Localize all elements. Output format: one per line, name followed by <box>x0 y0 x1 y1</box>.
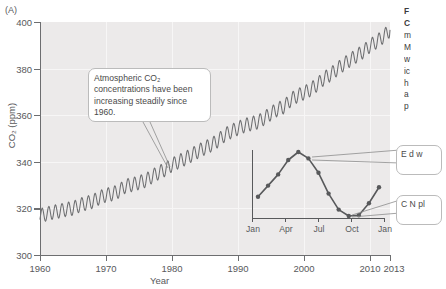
y-tick <box>34 69 40 70</box>
y-axis-line <box>40 22 41 256</box>
y-tick <box>34 115 40 116</box>
x-tick <box>40 255 41 261</box>
inset-tick-label: Jan <box>241 224 265 234</box>
y-tick <box>34 208 40 209</box>
caption-line: w <box>404 54 410 64</box>
inset-tick <box>285 218 286 222</box>
caption-line: p <box>404 101 409 111</box>
figure-caption: F C m M w ic h a p <box>404 6 446 113</box>
inset-tick <box>351 218 352 222</box>
callout-main-text: Atmospheric CO₂ concentrations have been… <box>88 68 211 122</box>
inset-tick-label: Oct <box>340 224 364 234</box>
caption-line: F <box>404 6 446 18</box>
gridline-vertical <box>304 22 305 255</box>
gridline-horizontal <box>40 162 390 163</box>
x-tick <box>172 255 173 261</box>
x-axis-line <box>40 255 391 256</box>
inset-tick-label: Jul <box>307 224 331 234</box>
inset-y-axis-line <box>252 150 253 218</box>
y-tick <box>34 162 40 163</box>
x-tick <box>106 255 107 261</box>
gridline-vertical <box>172 22 173 255</box>
inset-tick-label: Jan <box>373 224 397 234</box>
panel-label: (A) <box>5 5 17 15</box>
x-axis-title: Year <box>150 275 169 286</box>
caption-line: M <box>404 42 411 52</box>
gridline-vertical <box>238 22 239 255</box>
caption-line: m <box>404 30 411 40</box>
x-tick <box>390 255 391 261</box>
x-tick <box>370 255 371 261</box>
inset-tick-label: Apr <box>274 224 298 234</box>
caption-line: a <box>404 89 409 99</box>
x-tick-label: 2000 <box>290 263 318 274</box>
y-tick-label: 380 <box>0 64 32 75</box>
y-tick-label: 320 <box>0 203 32 214</box>
gridline-horizontal <box>40 208 390 209</box>
x-tick-label: 1980 <box>158 263 186 274</box>
caption-line: ic <box>404 66 410 76</box>
x-tick-label: 1960 <box>26 263 54 274</box>
callout-inset-top: E d w <box>396 145 442 175</box>
x-tick-label: 1970 <box>92 263 120 274</box>
caption-line: C <box>404 18 446 30</box>
x-tick-label: 1990 <box>224 263 252 274</box>
gridline-vertical <box>370 22 371 255</box>
y-tick-label: 400 <box>0 17 32 28</box>
caption-line: h <box>404 78 409 88</box>
x-tick <box>304 255 305 261</box>
y-axis-title: CO₂ (ppm) <box>6 91 17 161</box>
gridline-vertical <box>106 22 107 255</box>
x-tick-label: 2013 <box>380 263 408 274</box>
inset-tick <box>252 218 253 222</box>
x-tick <box>238 255 239 261</box>
y-tick-label: 300 <box>0 250 32 261</box>
y-tick <box>34 22 40 23</box>
callout-inset-bottom: C N pl <box>396 195 442 225</box>
inset-tick <box>318 218 319 222</box>
plot-area <box>40 22 390 255</box>
inset-tick <box>384 218 385 222</box>
